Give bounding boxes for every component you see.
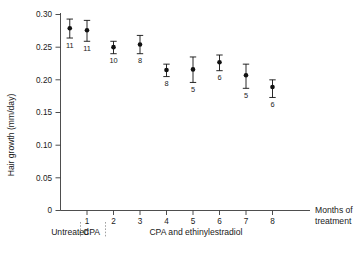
y-tick-labels: 0 0.05 0.10 0.15 0.20 0.25 0.30 [36, 10, 52, 215]
x-tick-group: 12345678 [85, 211, 276, 226]
group-annotation-label: CPA [83, 227, 100, 237]
x-tick-label: 5 [191, 217, 196, 226]
sample-size-label: 11 [66, 41, 74, 50]
data-point: 5 [190, 57, 196, 94]
data-point-marker [191, 67, 196, 72]
y-tick-label: 0.25 [36, 43, 52, 52]
chart-svg: 0 0.05 0.10 0.15 0.20 0.25 0.30 Hair gro… [0, 0, 363, 255]
y-tick-label: 0.20 [36, 76, 52, 85]
sample-size-label: 8 [164, 79, 168, 88]
data-point-marker [244, 73, 249, 78]
y-tick-label: 0.30 [36, 10, 52, 19]
data-point: 11 [66, 19, 74, 49]
sample-size-label: 8 [138, 56, 142, 65]
group-label-group: UntreatedCPACPA and ethinylestradiol [51, 227, 242, 237]
data-point: 6 [269, 80, 275, 109]
y-axis-title: Hair growth (mm/day) [6, 94, 16, 177]
sample-size-label: 6 [217, 73, 221, 82]
data-point-marker [270, 85, 275, 90]
y-tick-marks [56, 15, 61, 211]
data-point: 8 [163, 64, 169, 88]
sample-size-label: 5 [191, 85, 195, 94]
y-tick-label: 0 [47, 206, 52, 215]
x-axis-title-line2: treatment [315, 216, 352, 226]
sample-size-label: 11 [83, 44, 91, 53]
data-point-group: 111110885656 [66, 19, 276, 109]
data-point: 8 [137, 35, 143, 65]
y-tick-label: 0.15 [36, 108, 52, 117]
chart-figure: 0 0.05 0.10 0.15 0.20 0.25 0.30 Hair gro… [0, 0, 363, 255]
x-tick-label: 4 [164, 217, 169, 226]
sample-size-label: 10 [109, 56, 117, 65]
data-point-marker [85, 28, 90, 33]
x-tick-label: 1 [85, 217, 90, 226]
data-point: 6 [216, 55, 222, 82]
y-tick-label: 0.10 [36, 141, 52, 150]
sample-size-label: 5 [244, 91, 248, 100]
y-tick-label: 0.05 [36, 174, 52, 183]
x-tick-label: 8 [270, 217, 275, 226]
data-point-marker [164, 68, 169, 73]
data-point-marker [138, 42, 143, 47]
data-point: 5 [243, 64, 249, 100]
sample-size-label: 6 [270, 100, 274, 109]
group-annotation-label: CPA and ethinylestradiol [149, 227, 242, 237]
data-point-marker [67, 26, 72, 31]
x-tick-label: 3 [138, 217, 143, 226]
x-tick-label: 6 [217, 217, 222, 226]
x-tick-label: 7 [244, 217, 249, 226]
data-point: 10 [109, 41, 117, 65]
data-point-marker [217, 60, 222, 65]
data-point: 11 [83, 20, 91, 52]
x-tick-label: 2 [111, 217, 116, 226]
x-axis-title-line1: Months of [315, 205, 353, 215]
data-point-marker [111, 45, 116, 50]
